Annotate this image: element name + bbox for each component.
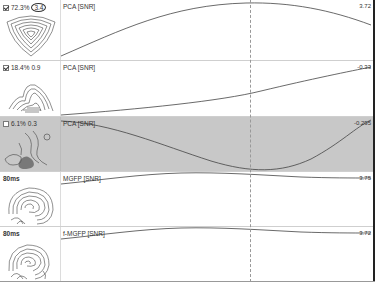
topomap-icon [3, 73, 59, 115]
trace-end-value: 3.75 [359, 175, 371, 181]
component-checkbox[interactable] [3, 65, 9, 71]
trace-end-value: -0.33 [357, 64, 371, 70]
topomap-icon [3, 129, 59, 171]
variance-percent: 72.3% [11, 4, 29, 11]
waveform-trace [61, 227, 373, 282]
waveform-panel: MGFP [SNR] 3.75 [61, 172, 373, 226]
signal-component-viewer: 72.3% 3.4 PCA [SNR] 3.72 [0, 0, 380, 287]
variance-percent: 18.4% [11, 64, 29, 71]
component-row-2[interactable]: 18.4% 0.9 PCA [SNR] -0.33 [0, 61, 373, 117]
trace-label: PCA [SNR] [63, 64, 95, 71]
trace-end-value: 3.72 [359, 3, 371, 9]
topomap-panel: 6.1% 0.3 [0, 117, 61, 171]
trace-label: MGFP [SNR] [63, 175, 101, 182]
trace-label: PCA [SNR] [63, 120, 95, 127]
waveform-panel: PCA [SNR] -0.33 [61, 61, 373, 116]
panel-right-border [373, 0, 375, 282]
trace-end-value: -0.295 [354, 120, 371, 126]
component-checkbox[interactable] [3, 121, 9, 127]
snr-value: 3.4 [31, 3, 46, 12]
waveform-panel: f-MGFP [SNR] 3.72 [61, 227, 373, 281]
waveform-trace [61, 117, 373, 172]
topomap-panel: 18.4% 0.9 [0, 61, 61, 116]
topomap-icon [3, 184, 59, 226]
variance-percent: 6.1% [11, 120, 26, 127]
waveform-trace [61, 172, 373, 227]
waveform-trace [61, 0, 373, 61]
panel-bottom-border [0, 281, 375, 282]
snr-value: 0.9 [31, 64, 40, 71]
snr-value: 0.3 [28, 120, 37, 127]
component-checkbox[interactable] [3, 5, 9, 11]
trace-label: PCA [SNR] [63, 3, 95, 10]
time-cursor-line[interactable] [250, 0, 251, 282]
waveform-trace [61, 61, 373, 117]
latency-label: 80ms [3, 230, 20, 237]
trace-label: f-MGFP [SNR] [63, 230, 105, 237]
topomap-panel: 72.3% 3.4 [0, 0, 61, 60]
trace-end-value: 3.72 [359, 230, 371, 236]
component-row-4[interactable]: 80ms MGFP [SNR] 3.75 [0, 172, 373, 227]
waveform-panel: PCA [SNR] -0.295 [61, 117, 373, 171]
topomap-icon [3, 239, 59, 281]
waveform-panel: PCA [SNR] 3.72 [61, 0, 373, 60]
topomap-panel: 80ms [0, 227, 61, 281]
component-row-1[interactable]: 72.3% 3.4 PCA [SNR] 3.72 [0, 0, 373, 61]
topomap-icon [3, 12, 59, 58]
component-row-5[interactable]: 80ms f-MGFP [SNR] 3.72 [0, 227, 373, 282]
component-row-3[interactable]: 6.1% 0.3 PCA [SNR] -0.29 [0, 117, 373, 172]
latency-label: 80ms [3, 175, 20, 182]
topomap-panel: 80ms [0, 172, 61, 226]
